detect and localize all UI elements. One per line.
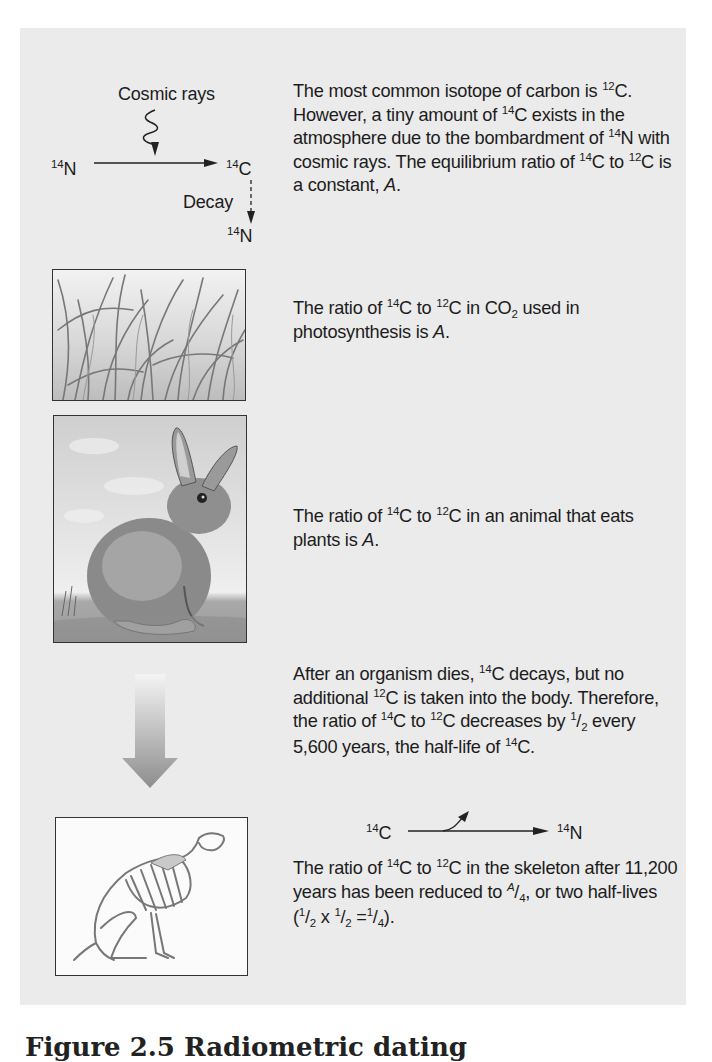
decay-dashed-arrow-icon: [244, 180, 258, 226]
beta-decay-arrow-icon: [405, 810, 555, 836]
atmosphere-text: The most common isotope of carbon is 12C…: [293, 80, 683, 198]
nitrogen-14-decay-product: 14N: [227, 226, 252, 246]
grass-blades-icon: [53, 270, 246, 401]
grass-illustration: [52, 269, 246, 401]
transmutation-arrow-icon: [94, 156, 224, 170]
skeleton-ratio-text: The ratio of 14C to 12C in the skeleton …: [293, 857, 683, 932]
death-decay-text: After an organism dies, 14C decays, but …: [293, 663, 683, 759]
skeleton-illustration: [55, 817, 248, 976]
cosmic-rays-label: Cosmic rays: [118, 84, 215, 104]
nitrogen-14-product: 14N: [557, 823, 582, 843]
decay-label: Decay: [183, 192, 233, 212]
cosmic-ray-wavy-arrow-icon: [130, 108, 180, 158]
carbon-14-product: 14C: [226, 159, 251, 179]
rabbit-skeleton-icon: [56, 818, 248, 976]
rabbit-icon: [54, 416, 247, 643]
time-passes-down-arrow-icon: [120, 674, 180, 790]
nitrogen-14-source: 14N: [51, 159, 76, 179]
figure-caption: Figure 2.5 Radiometric dating: [25, 1032, 467, 1062]
carbon-14-reactant: 14C: [366, 823, 391, 843]
animal-text: The ratio of 14C to 12C in an animal tha…: [293, 505, 683, 552]
photosynthesis-text: The ratio of 14C to 12C in CO2 used in p…: [293, 297, 683, 344]
rabbit-illustration: [53, 415, 247, 643]
